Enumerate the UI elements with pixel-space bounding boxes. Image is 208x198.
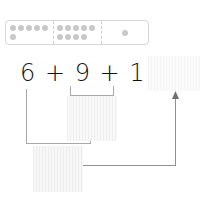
dot-icon: [65, 34, 71, 40]
dot-icon: [18, 25, 24, 31]
ten-frame-cell-nine: [53, 21, 102, 44]
dot-icon: [57, 34, 63, 40]
dot-icon: [42, 25, 48, 31]
six-connector-vertical: [26, 89, 27, 143]
ten-frame: [5, 20, 149, 45]
dot-icon: [81, 34, 87, 40]
ten-frame-cell-one: [101, 21, 149, 44]
arrow-up-icon: [171, 91, 180, 100]
ten-frame-cell-six: [6, 21, 54, 44]
mid-connector-vertical: [90, 141, 91, 144]
dot-icon: [89, 25, 95, 31]
dot-icon: [26, 25, 32, 31]
bracket-left: [70, 86, 71, 95]
dot-icon: [57, 25, 63, 31]
dot-icon: [73, 25, 79, 31]
dot-icon: [81, 25, 87, 31]
bracket-right: [113, 86, 114, 95]
answer-connector-horizontal: [83, 165, 175, 166]
dot-icon: [34, 25, 40, 31]
dot-icon: [10, 34, 16, 40]
dot-icon: [122, 30, 128, 36]
dot-icon: [65, 25, 71, 31]
nine-plus-one-box[interactable]: [67, 96, 117, 141]
dot-icon: [73, 34, 79, 40]
answer-connector-vertical: [175, 96, 176, 166]
six-plus-ten-box[interactable]: [33, 146, 83, 192]
answer-box[interactable]: [148, 56, 200, 91]
six-connector-horizontal: [26, 143, 91, 144]
dot-icon: [10, 25, 16, 31]
